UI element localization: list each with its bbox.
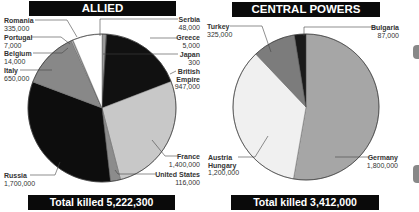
allied-total: Total killed 5,222,300 <box>50 196 154 208</box>
label-united-states: United States 116,000 <box>140 171 200 186</box>
label-romania: Romania 335,000 <box>4 17 34 32</box>
central-powers-total-bar: Total killed 3,412,000 <box>231 195 379 210</box>
label-austria-hungary: Austria Hungary 1,200,000 <box>208 154 239 177</box>
right-edge-fragment-bottom <box>413 165 419 183</box>
label-british-empire: British Empire 947,000 <box>160 68 200 91</box>
allied-title: ALLIED <box>82 2 124 14</box>
central-powers-title-bar: CENTRAL POWERS <box>232 2 380 17</box>
label-greece: Greece 5,000 <box>160 34 200 49</box>
right-edge-fragment-top <box>413 45 419 59</box>
central-powers-total: Total killed 3,412,000 <box>253 196 357 208</box>
label-russia: Russia 1,700,000 <box>4 172 35 187</box>
label-france: France 1,400,000 <box>150 153 200 168</box>
label-bulgaria: Bulgaria 87,000 <box>355 24 399 39</box>
central-powers-title: CENTRAL POWERS <box>251 3 360 15</box>
label-turkey: Turkey 325,000 <box>207 23 232 38</box>
label-italy: Italy 650,000 <box>4 67 29 82</box>
label-germany: Germany 1,800,000 <box>350 154 398 169</box>
allied-total-bar: Total killed 5,222,300 <box>28 195 175 210</box>
label-portugal: Portugal 7,000 <box>4 34 32 49</box>
label-japan: Japan 300 <box>160 51 200 66</box>
label-serbia: Serbia 48,000 <box>160 16 200 31</box>
allied-title-bar: ALLIED <box>29 1 176 16</box>
label-belgium: Belgium 14,000 <box>4 50 32 65</box>
